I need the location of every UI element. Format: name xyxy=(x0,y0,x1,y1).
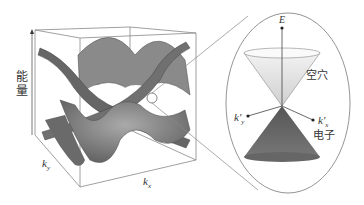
dirac-point-marker xyxy=(147,93,157,103)
inset-kx-prime-label: k'x xyxy=(318,115,328,129)
inset-ky-prime-label: k'y xyxy=(234,112,244,126)
electrons-label: 电子 xyxy=(313,130,335,141)
inset-ellipse xyxy=(226,13,350,193)
inset-e-label: E xyxy=(279,15,285,25)
diagram-canvas xyxy=(0,0,364,205)
energy-axis-arrow xyxy=(30,29,34,135)
ky-axis-label: ky xyxy=(42,158,50,172)
kx-axis-label: kx xyxy=(143,176,151,190)
holes-label: 空穴 xyxy=(306,70,328,81)
energy-axis-label: 能量 xyxy=(14,70,26,98)
